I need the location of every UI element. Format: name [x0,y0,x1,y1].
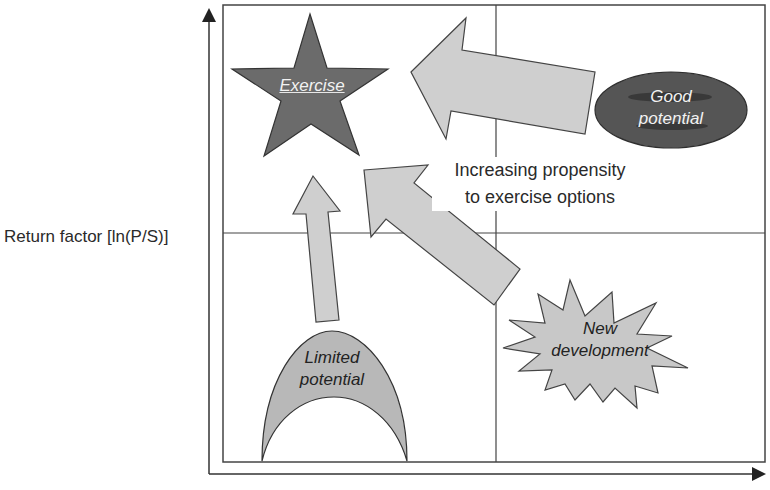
arrow-up-icon [293,176,340,322]
x-axis-arrowhead-icon [752,467,766,481]
limited-potential-label: Limited potential [272,347,392,391]
good-potential-line-2: potential [610,108,732,130]
y-axis-arrowhead-icon [202,8,216,22]
propensity-caption: Increasing propensity to exercise option… [432,157,648,211]
caption-line-1: Increasing propensity [432,157,648,184]
good-potential-line-1: Good [610,86,732,108]
new-development-label: New development [530,318,670,362]
limited-potential-line-2: potential [272,369,392,391]
good-potential-label: Good potential [610,86,732,130]
arrow-left-icon [411,18,595,139]
new-development-line-1: New [530,318,670,340]
new-development-line-2: development [530,340,670,362]
limited-potential-line-1: Limited [272,347,392,369]
y-axis-label: Return factor [ln(P/S)] [4,227,168,247]
caption-line-2: to exercise options [432,184,648,211]
exercise-label: Exercise [262,75,362,97]
